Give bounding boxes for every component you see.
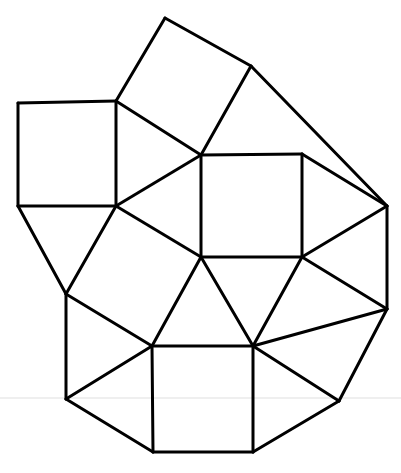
geometric-net-figure <box>0 0 401 473</box>
edge-N-R <box>152 346 153 452</box>
square-center <box>201 154 302 257</box>
figure-canvas <box>0 0 401 473</box>
edge-D-C <box>18 101 116 103</box>
square-upper-left <box>18 101 116 206</box>
edge-E-F <box>201 154 302 155</box>
